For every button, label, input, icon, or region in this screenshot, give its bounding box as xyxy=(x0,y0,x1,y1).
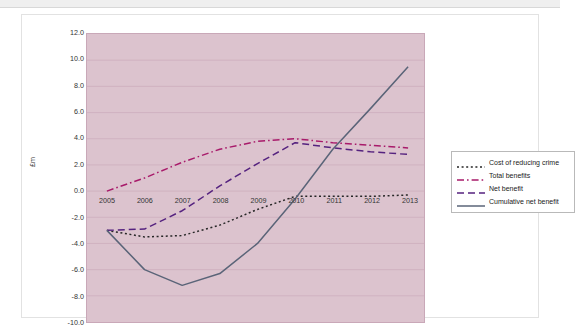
legend-label: Cumulative net benefit xyxy=(489,197,559,206)
legend-item-2[interactable]: Net benefit xyxy=(456,182,571,195)
y-tick-label: -8.0 xyxy=(42,293,84,301)
y-axis-tick-labels: 12.010.08.06.04.02.00.0-2.0-4.0-6.0-8.0-… xyxy=(34,33,84,323)
legend-swatch-icon xyxy=(456,184,486,194)
y-tick-label: -2.0 xyxy=(42,214,84,222)
y-tick-label: 12.0 xyxy=(42,29,84,37)
top-strip xyxy=(0,0,560,8)
y-tick-label: 10.0 xyxy=(42,55,84,63)
legend-label: Total benefits xyxy=(489,171,530,180)
legend-item-3[interactable]: Cumulative net benefit xyxy=(456,195,571,208)
legend-item-1[interactable]: Total benefits xyxy=(456,169,571,182)
series-lines xyxy=(87,34,424,322)
plot-area: 200520062007200820092010201120122013 xyxy=(86,33,425,323)
y-tick-label: -10.0 xyxy=(42,319,84,327)
legend-item-0[interactable]: Cost of reducing crime xyxy=(456,156,571,169)
y-tick-label: 2.0 xyxy=(42,161,84,169)
y-tick-label: 6.0 xyxy=(42,108,84,116)
legend-swatch-icon xyxy=(456,158,486,168)
y-tick-label: 0.0 xyxy=(42,187,84,195)
y-tick-label: -4.0 xyxy=(42,240,84,248)
legend-swatch-icon xyxy=(456,197,486,207)
legend-swatch-icon xyxy=(456,171,486,181)
y-tick-label: 4.0 xyxy=(42,134,84,142)
chart-legend: Cost of reducing crimeTotal benefitsNet … xyxy=(451,151,575,213)
chart-container: £m 12.010.08.06.04.02.00.0-2.0-4.0-6.0-8… xyxy=(21,14,539,318)
y-tick-label: 8.0 xyxy=(42,82,84,90)
y-tick-label: -6.0 xyxy=(42,266,84,274)
legend-label: Cost of reducing crime xyxy=(489,158,559,167)
legend-label: Net benefit xyxy=(489,184,523,193)
